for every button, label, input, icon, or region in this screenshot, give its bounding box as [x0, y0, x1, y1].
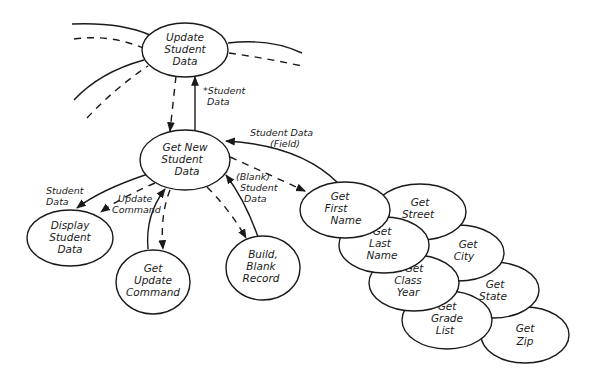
svg-text:UpdateCommand: UpdateCommand [112, 193, 162, 215]
node-display-student-data: DisplayStudentData [27, 210, 113, 266]
svg-text:Build,BlankRecord: Build,BlankRecord [243, 248, 280, 284]
svg-text:GetZip: GetZip [516, 322, 536, 347]
edge-update-getnew-down [170, 76, 176, 131]
node-build-blank-record: Build,BlankRecord [226, 236, 300, 300]
node-get-update-command: GetUpdateCommand [116, 250, 190, 314]
structure-chart: *StudentData Student Data(Field) (Blank)… [0, 0, 599, 373]
svg-text:(Blank)StudentData: (Blank)StudentData [236, 171, 279, 204]
svg-text:StudentData: StudentData [46, 185, 85, 207]
edge-getnew-getcmd [162, 190, 170, 249]
svg-text:Student Data(Field): Student Data(Field) [250, 127, 313, 149]
node-get-first-name: GetFirstName [300, 182, 390, 238]
node-get-new-student-data: Get NewStudentData [140, 130, 230, 190]
edge-getnew-build [207, 187, 246, 238]
node-update-student-data: UpdateStudentData [142, 23, 228, 77]
svg-text:*StudentData: *StudentData [203, 85, 246, 107]
